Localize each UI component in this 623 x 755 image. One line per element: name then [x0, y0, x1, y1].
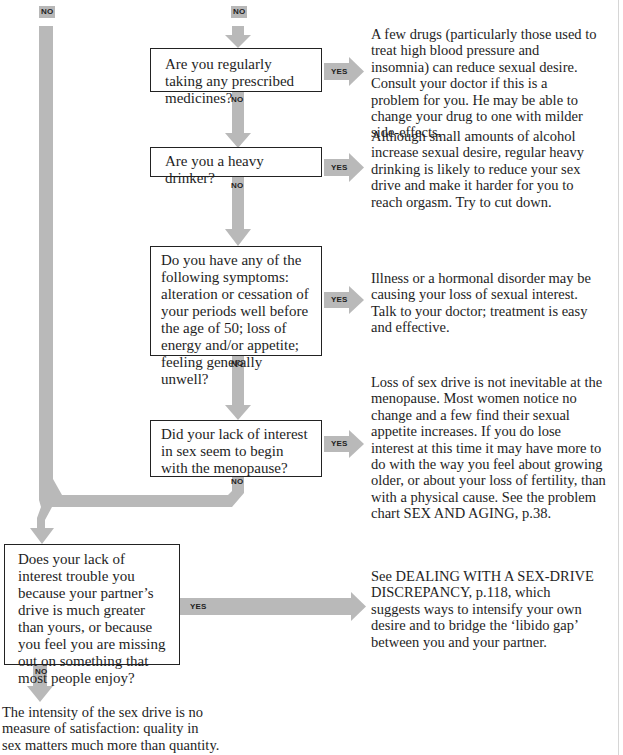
answer-intensity-satisfaction: The intensity of the sex drive is no mea… [2, 704, 220, 753]
yes-label: YES [331, 68, 348, 76]
answer-prescribed-medicines: A few drugs (particularly those used to … [371, 26, 599, 141]
yes-label: YES [331, 296, 348, 304]
answer-heavy-drinker: Although small amounts of alcohol increa… [371, 128, 601, 210]
answer-symptoms: Illness or a hormonal disorder may be ca… [371, 270, 597, 336]
question-box-symptoms: Do you have any of the following symptom… [150, 246, 322, 356]
question-box-prescribed-medicines: Are you regularly taking any prescribed … [150, 48, 322, 92]
answer-menopause: Loss of sex drive is not inevitable at t… [371, 374, 607, 522]
left-no-trunk [39, 26, 53, 466]
no-label: NO [231, 182, 243, 190]
yes-label: YES [331, 440, 348, 448]
yes-label: YES [331, 164, 348, 172]
question-box-heavy-drinker: Are you a heavy drinker? [150, 147, 322, 177]
no-label: NO [231, 478, 243, 486]
answer-sex-drive-discrepancy: See DEALING WITH A SEX-DRIVE DISCREPANCY… [371, 568, 603, 650]
no-label: NO [231, 6, 247, 18]
no-label: NO [231, 96, 243, 104]
no-label: NO [39, 6, 55, 18]
question-box-menopause: Did your lack of interest in sex seem to… [150, 420, 322, 477]
yes-label: YES [190, 603, 207, 611]
question-box-partner-drive: Does your lack of interest trouble you b… [4, 544, 180, 665]
